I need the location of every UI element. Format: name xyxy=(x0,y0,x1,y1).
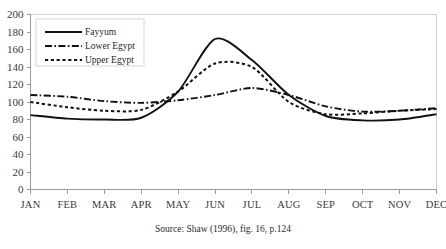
x-tick-label-jan: JAN xyxy=(21,199,41,210)
x-axis-ticks: JANFEBMARAPRMAYJUNJULAUGSEPOCTNOVDEC xyxy=(21,190,446,210)
y-tick-label: 160 xyxy=(7,43,24,55)
y-axis-ticks: 020406080100120140160180200 xyxy=(7,8,31,195)
x-tick-label-may: MAY xyxy=(166,199,190,210)
y-tick-label: 80 xyxy=(13,113,25,125)
legend-label-fayyum: Fayyum xyxy=(85,27,117,37)
legend-label-upper-egypt: Upper Egypt xyxy=(85,55,134,65)
x-tick-label-dec: DEC xyxy=(426,199,446,210)
y-tick-label: 0 xyxy=(18,183,24,195)
x-tick-label-oct: OCT xyxy=(352,199,374,210)
source-caption: Source: Shaw (1996), fig. 16, p.124 xyxy=(0,224,446,234)
chart-legend: FayyumLower EgyptUpper Egypt xyxy=(36,19,144,66)
chart-figure: 020406080100120140160180200 JANFEBMARAPR… xyxy=(0,0,446,249)
y-tick-label: 20 xyxy=(13,166,25,178)
y-tick-label: 200 xyxy=(7,8,24,20)
series-line-lower-egypt xyxy=(31,88,437,112)
y-tick-label: 120 xyxy=(7,78,24,90)
x-tick-label-aug: AUG xyxy=(277,199,301,210)
y-tick-label: 180 xyxy=(7,26,24,38)
y-tick-label: 40 xyxy=(13,148,25,160)
x-tick-label-nov: NOV xyxy=(388,199,412,210)
x-tick-label-jun: JUN xyxy=(205,199,225,210)
x-tick-label-mar: MAR xyxy=(92,199,117,210)
x-tick-label-apr: APR xyxy=(131,199,152,210)
y-tick-label: 100 xyxy=(7,96,24,108)
x-tick-label-jul: JUL xyxy=(243,199,262,210)
x-tick-label-feb: FEB xyxy=(57,199,77,210)
series-line-upper-egypt xyxy=(31,62,437,115)
x-tick-label-sep: SEP xyxy=(316,199,335,210)
y-tick-label: 140 xyxy=(7,61,24,73)
line-chart: 020406080100120140160180200 JANFEBMARAPR… xyxy=(0,0,446,249)
legend-label-lower-egypt: Lower Egypt xyxy=(85,41,135,51)
y-tick-label: 60 xyxy=(13,131,25,143)
